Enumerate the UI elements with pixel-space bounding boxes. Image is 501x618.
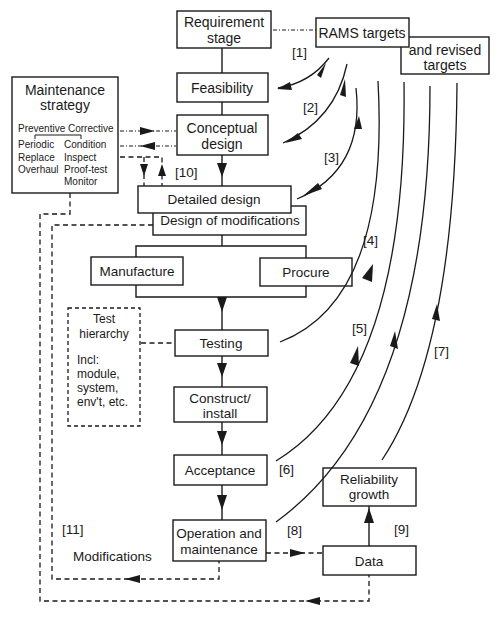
svg-text:RAMS targets: RAMS targets <box>318 25 405 41</box>
svg-text:Corrective: Corrective <box>68 123 114 134</box>
svg-text:maintenance: maintenance <box>180 542 257 557</box>
maintenance-conceptual-links <box>120 127 176 186</box>
svg-text:Proof-test: Proof-test <box>64 164 108 175</box>
svg-text:install: install <box>203 406 238 421</box>
svg-text:system,: system, <box>77 381 118 395</box>
label-10: [10] <box>175 165 198 180</box>
label-4: [4] <box>363 233 378 248</box>
label-9: [9] <box>394 522 409 537</box>
svg-text:and revised: and revised <box>409 42 481 58</box>
svg-text:Acceptance: Acceptance <box>185 463 256 478</box>
svg-text:Operation and: Operation and <box>176 526 262 541</box>
svg-text:targets: targets <box>424 57 467 73</box>
label-11: [11] <box>62 522 84 537</box>
box-feasibility: Feasibility <box>177 73 268 102</box>
svg-text:Manufacture: Manufacture <box>99 264 174 279</box>
box-rams-targets: and revised targets RAMS targets <box>316 18 489 74</box>
feedback-arcs <box>276 58 457 522</box>
svg-text:Design of modifications: Design of modifications <box>160 213 300 228</box>
box-acceptance: Acceptance <box>174 455 267 485</box>
label-3: [3] <box>324 150 339 165</box>
box-construct-install: Construct/ install <box>174 387 267 422</box>
svg-text:Periodic: Periodic <box>18 139 54 150</box>
svg-text:Monitor: Monitor <box>64 176 98 187</box>
svg-text:Incl:: Incl: <box>77 353 99 367</box>
label-modifications: Modifications <box>73 549 152 564</box>
svg-text:Requirement: Requirement <box>184 14 264 30</box>
label-5: [5] <box>352 321 367 336</box>
box-operation-maintenance: Operation and maintenance <box>173 520 266 561</box>
box-test-hierarchy: Test hierarchy Incl: module, system, env… <box>68 308 140 426</box>
svg-text:Construct/: Construct/ <box>189 391 251 406</box>
svg-text:design: design <box>201 136 242 152</box>
svg-text:Overhaul: Overhaul <box>18 164 59 175</box>
svg-text:Testing: Testing <box>200 336 243 351</box>
box-manufacture: Manufacture <box>91 257 183 285</box>
svg-text:growth: growth <box>349 487 390 502</box>
svg-text:Data: Data <box>355 554 384 569</box>
svg-text:Maintenance: Maintenance <box>25 82 105 98</box>
label-2: [2] <box>303 100 318 115</box>
svg-text:Test: Test <box>93 312 116 326</box>
box-reliability-growth: Reliability growth <box>323 468 416 506</box>
label-7: [7] <box>434 344 449 359</box>
label-8: [8] <box>287 523 302 538</box>
svg-text:Replace: Replace <box>18 152 55 163</box>
svg-text:Reliability: Reliability <box>340 472 398 487</box>
svg-text:strategy: strategy <box>40 97 90 113</box>
box-conceptual-design: Conceptual design <box>177 115 268 155</box>
svg-text:hierarchy: hierarchy <box>79 327 128 341</box>
svg-text:Preventive: Preventive <box>18 123 66 134</box>
box-procure: Procure <box>260 258 352 286</box>
svg-text:Procure: Procure <box>282 265 329 280</box>
svg-text:stage: stage <box>207 30 241 46</box>
svg-text:Feasibility: Feasibility <box>191 80 253 96</box>
box-testing: Testing <box>175 330 268 356</box>
svg-text:Condition: Condition <box>64 139 106 150</box>
svg-text:Inspect: Inspect <box>64 152 96 163</box>
svg-text:env't, etc.: env't, etc. <box>77 395 128 409</box>
svg-text:Detailed design: Detailed design <box>167 192 260 207</box>
svg-text:Conceptual: Conceptual <box>187 120 258 136</box>
label-1: [1] <box>292 45 307 60</box>
rams-lifecycle-diagram: Requirement stage and revised targets RA… <box>0 0 501 618</box>
box-maintenance-strategy: Maintenance strategy Preventive Correcti… <box>12 77 118 193</box>
box-data: Data <box>323 546 416 575</box>
label-6: [6] <box>279 462 294 477</box>
operation-to-data-link <box>266 549 323 557</box>
box-detailed-design: Design of modifications Detailed design <box>138 186 306 235</box>
box-requirement-stage: Requirement stage <box>177 11 271 48</box>
svg-text:module,: module, <box>77 367 120 381</box>
